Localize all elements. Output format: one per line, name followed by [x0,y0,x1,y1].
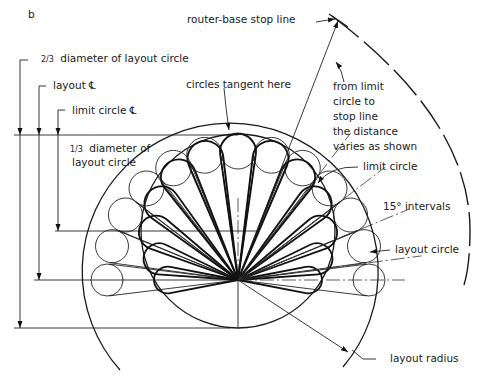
stop-line-tick [329,14,348,27]
router-layout-diagram: b router-base stop line 2/3 diam [0,0,480,381]
label-from-limit-2: circle to [333,95,375,107]
tangent-line [238,280,367,296]
dimension-one-third [58,110,65,231]
label-two-thirds: 2/3 diameter of layout circle [41,52,189,64]
label-two-thirds-text: diameter of layout circle [60,52,188,64]
label-stop-line: router-base stop line [187,13,296,25]
dimension-layout-cl [39,86,46,280]
leader-limit-circle [318,167,358,183]
label-limit-cl: limit circle ℄ [72,104,137,116]
label-layout-radius: layout radius [390,352,459,364]
limit-teardrop [144,186,238,280]
layout-tangent-circle [254,137,290,173]
figure-label: b [28,8,35,20]
label-layout-cl: layout ℄ [53,79,96,91]
layout-tangent-circle [96,230,129,263]
label-from-limit-4: the distance [333,125,398,137]
limit-teardrop [238,186,332,280]
label-from-limit-3: stop line [333,110,378,122]
dimension-two-thirds [20,60,28,328]
label-limit-circle: limit circle [363,160,417,172]
label-intervals: 15° intervals [383,200,450,212]
leader-layout-radius [352,350,376,359]
leader-from-limit [336,62,344,82]
label-one-third-2: layout circle [72,156,136,168]
label-one-third-text: diameter of [89,142,150,154]
label-from-limit-1: from limit [333,80,384,92]
label-one-third-frac: 1/3 [70,145,83,154]
tangent-line [109,280,238,296]
label-from-limit-5: varies as shown [333,140,417,152]
label-layout-circle: layout circle [395,243,459,255]
leader-stop-line [316,19,335,22]
label-one-third-1: 1/3 diameter of [70,142,151,154]
label-two-thirds-frac: 2/3 [41,55,54,64]
label-tangent: circles tangent here [186,78,291,90]
